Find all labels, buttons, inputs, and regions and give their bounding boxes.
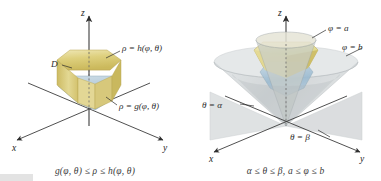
panel-left: ρ = h(φ, θ) D ρ = g(φ, θ) x y z g(φ, θ) … — [0, 0, 190, 181]
theta-alpha-label: θ = α — [202, 100, 222, 110]
rho-h-label: ρ = h(φ, θ) — [121, 43, 162, 53]
z-axis-label: z — [277, 8, 282, 18]
region-d-label: D — [50, 59, 58, 69]
y-axis-label: y — [359, 154, 365, 164]
x-axis-label: x — [208, 154, 214, 164]
panel-right: φ = a φ = b θ = α θ = β x y z α ≤ θ ≤ β,… — [190, 0, 381, 181]
corner-strip — [0, 174, 33, 181]
rho-g-label: ρ = g(φ, θ) — [118, 101, 159, 111]
right-panel-svg: φ = a φ = b θ = α θ = β x y z — [190, 0, 381, 181]
right-panel-caption: α ≤ θ ≤ β, a ≤ φ ≤ b — [190, 166, 381, 176]
figure-container: ρ = h(φ, θ) D ρ = g(φ, θ) x y z g(φ, θ) … — [0, 0, 381, 181]
left-panel-svg: ρ = h(φ, θ) D ρ = g(φ, θ) x y z — [0, 0, 190, 181]
theta-beta-label: θ = β — [290, 132, 310, 142]
phi-a-label: φ = a — [328, 23, 349, 33]
y-axis-label: y — [162, 143, 168, 153]
z-axis-label: z — [80, 8, 85, 18]
x-axis-label: x — [11, 143, 17, 153]
phi-b-label: φ = b — [342, 42, 363, 52]
